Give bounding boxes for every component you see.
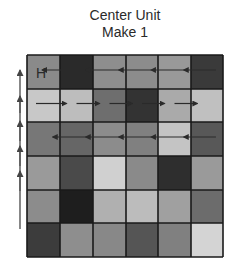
grid-cell bbox=[191, 190, 223, 223]
grid-cell bbox=[158, 223, 191, 257]
grid-cell bbox=[93, 55, 126, 89]
grid-cell bbox=[60, 156, 93, 190]
grid-cell bbox=[126, 190, 158, 223]
grid-cell bbox=[158, 156, 191, 190]
grid-cell bbox=[60, 55, 93, 89]
grid-cell bbox=[60, 223, 93, 257]
grid-cell bbox=[27, 156, 60, 190]
grid-cell bbox=[158, 190, 191, 223]
quilt-grid-diagram: H bbox=[0, 0, 240, 268]
grid-cell bbox=[27, 190, 60, 223]
grid-cell bbox=[126, 55, 158, 89]
grid-cell bbox=[191, 55, 223, 89]
start-label-h: H bbox=[36, 65, 46, 81]
grid-cell bbox=[60, 190, 93, 223]
grid-cell bbox=[191, 122, 223, 156]
grid-cell bbox=[93, 89, 126, 122]
grid-cell bbox=[191, 89, 223, 122]
grid-cell bbox=[158, 55, 191, 89]
grid-cell bbox=[126, 223, 158, 257]
grid-cell bbox=[60, 122, 93, 156]
grid-cell bbox=[93, 156, 126, 190]
grid-cell bbox=[126, 156, 158, 190]
grid-cell bbox=[158, 122, 191, 156]
grid-cell bbox=[27, 223, 60, 257]
grid-cell bbox=[27, 122, 60, 156]
grid-cell bbox=[191, 223, 223, 257]
grid-cell bbox=[191, 156, 223, 190]
grid-cell bbox=[93, 223, 126, 257]
grid-cell bbox=[27, 89, 60, 122]
grid-cell bbox=[126, 89, 158, 122]
grid-cell bbox=[93, 190, 126, 223]
grid-cell bbox=[126, 122, 158, 156]
grid-cell bbox=[60, 89, 93, 122]
grid-cell bbox=[93, 122, 126, 156]
grid-cell bbox=[158, 89, 191, 122]
